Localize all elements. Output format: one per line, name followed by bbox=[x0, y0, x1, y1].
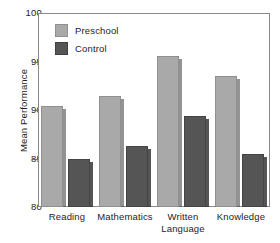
bar-shadow bbox=[90, 162, 93, 207]
x-tick-label-line: Knowledge bbox=[217, 211, 265, 222]
bar-control-written-language bbox=[184, 116, 209, 207]
bar-shadow-notch bbox=[63, 106, 66, 109]
bar-body bbox=[126, 146, 148, 207]
bar-body bbox=[184, 116, 206, 207]
x-tick-label-written-language: WrittenLanguage bbox=[154, 211, 212, 234]
bar-shadow bbox=[63, 109, 66, 207]
bar-body bbox=[215, 76, 237, 207]
bar-preschool-reading bbox=[41, 106, 66, 207]
x-tick-label-line: Reading bbox=[49, 211, 85, 222]
bar-shadow bbox=[264, 157, 267, 207]
legend-swatch-preschool bbox=[55, 24, 68, 37]
bar-shadow-notch bbox=[206, 116, 209, 119]
bar-body bbox=[157, 56, 179, 207]
bar-preschool-mathematics bbox=[99, 96, 124, 207]
bar-group bbox=[157, 13, 209, 207]
bar-control-knowledge bbox=[242, 154, 267, 207]
bar-shadow bbox=[206, 119, 209, 207]
bar-shadow-notch bbox=[90, 159, 93, 162]
y-tick-label-80: 80 bbox=[8, 201, 42, 212]
bar-shadow-notch bbox=[237, 76, 240, 79]
bar-group bbox=[215, 13, 267, 207]
bar-shadow bbox=[179, 59, 182, 207]
legend-label-preschool: Preschool bbox=[75, 25, 119, 36]
bar-shadow-notch bbox=[264, 154, 267, 157]
x-tick-label-mathematics: Mathematics bbox=[96, 211, 154, 223]
x-tick-label-knowledge: Knowledge bbox=[212, 211, 270, 223]
bar-preschool-written-language bbox=[157, 56, 182, 207]
bar-body bbox=[99, 96, 121, 207]
x-tick-label-line: Mathematics bbox=[97, 211, 153, 222]
bar-preschool-knowledge bbox=[215, 76, 240, 207]
legend: Preschool Control bbox=[55, 24, 119, 60]
bar-shadow-notch bbox=[179, 56, 182, 59]
bar-shadow-notch bbox=[148, 146, 151, 149]
legend-item-preschool: Preschool bbox=[55, 24, 119, 37]
bar-body bbox=[242, 154, 264, 207]
bar-control-reading bbox=[68, 159, 93, 207]
bar-shadow-notch bbox=[121, 96, 124, 99]
legend-swatch-control bbox=[55, 42, 68, 55]
bar-chart: Mean Performance 10095908580 Preschool C… bbox=[0, 0, 280, 243]
x-tick-label-reading: Reading bbox=[38, 211, 96, 223]
bar-control-mathematics bbox=[126, 146, 151, 207]
bar-shadow bbox=[148, 149, 151, 207]
bar-shadow bbox=[237, 79, 240, 207]
x-tick-label-line: Language bbox=[154, 223, 212, 235]
legend-label-control: Control bbox=[75, 43, 107, 54]
legend-item-control: Control bbox=[55, 42, 119, 55]
bar-body bbox=[68, 159, 90, 207]
x-tick-label-line: Written bbox=[168, 211, 199, 222]
bar-shadow bbox=[121, 99, 124, 207]
y-tick-label-100: 100 bbox=[8, 7, 42, 18]
bar-body bbox=[41, 106, 63, 207]
